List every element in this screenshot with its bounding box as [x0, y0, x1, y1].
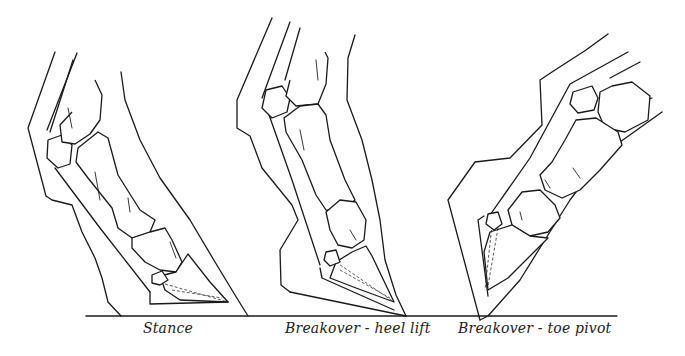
- caption-stance: Stance: [143, 320, 193, 336]
- caption-heel-lift: Breakover - heel lift: [285, 320, 431, 336]
- toe-pivot-illustration: [448, 34, 662, 320]
- caption-toe-pivot: Breakover - toe pivot: [458, 320, 611, 336]
- heel-lift-illustration: [237, 18, 406, 316]
- hoof-breakover-diagram: Stance Breakover - heel lift Breakover -…: [0, 0, 685, 356]
- diagram-drawing: [0, 0, 685, 356]
- stance-illustration: [28, 52, 248, 316]
